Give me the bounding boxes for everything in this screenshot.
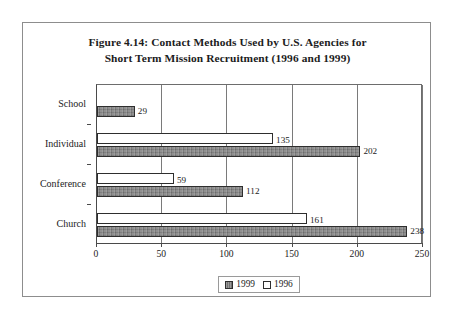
bar-label-1999-individual: 202 <box>363 146 377 157</box>
bar-1999-school <box>97 106 135 117</box>
x-axis-tick-0: 0 <box>94 247 99 260</box>
x-axis-tick-150: 150 <box>284 247 298 260</box>
bar-label-1996-conference: 59 <box>177 175 186 186</box>
figure-frame: Figure 4.14: Contact Methods Used by U.S… <box>22 22 431 297</box>
chart-title: Figure 4.14: Contact Methods Used by U.S… <box>23 34 432 66</box>
x-axis-tick-100: 100 <box>219 247 233 260</box>
y-axis-tick-mark <box>87 164 91 165</box>
legend-swatch-1996 <box>263 281 271 289</box>
bar-1999-individual <box>97 146 360 157</box>
x-axis-tick-mark <box>422 243 423 247</box>
bar-1999-church <box>97 226 407 237</box>
x-axis-tick-250: 250 <box>415 247 429 260</box>
chart-title-line-2: Short Term Mission Recruitment (1996 and… <box>23 50 432 66</box>
bar-label-1999-school: 29 <box>138 106 147 117</box>
bar-1996-church <box>97 213 307 224</box>
y-axis-tick-conference: Conference <box>40 178 91 190</box>
x-axis-labels: 050100150200250 <box>96 247 422 261</box>
y-axis-tick-individual: Individual <box>45 138 91 150</box>
bar-label-1999-conference: 112 <box>246 186 259 197</box>
chart-legend: 19991996 <box>218 276 300 293</box>
bar-label-1999-church: 238 <box>410 226 424 237</box>
x-axis-tick-mark <box>357 243 358 247</box>
y-axis-tick-mark <box>87 124 91 125</box>
x-axis-tick-mark <box>292 243 293 247</box>
gridline <box>357 85 358 243</box>
bar-1996-individual <box>97 133 273 144</box>
legend-entry-1999: 1999 <box>225 279 255 290</box>
legend-label-1996: 1996 <box>274 279 293 290</box>
gridline <box>422 85 423 243</box>
chart-title-line-1: Figure 4.14: Contact Methods Used by U.S… <box>23 34 432 50</box>
x-axis-tick-200: 200 <box>350 247 364 260</box>
y-axis-tick-church: Church <box>57 218 91 230</box>
bar-label-1996-church: 161 <box>310 215 324 226</box>
y-axis-labels: SchoolIndividualConferenceChurch <box>23 84 91 244</box>
x-axis-tick-50: 50 <box>156 247 166 260</box>
x-axis-tick-mark <box>226 243 227 247</box>
x-axis-tick-mark <box>96 243 97 247</box>
bar-1996-conference <box>97 173 174 184</box>
legend-entry-1996: 1996 <box>263 279 293 290</box>
bar-label-1996-individual: 135 <box>276 135 290 146</box>
y-axis-tick-school: School <box>58 98 91 110</box>
legend-swatch-1999 <box>225 281 233 289</box>
legend-label-1999: 1999 <box>236 279 255 290</box>
y-axis-tick-mark <box>87 204 91 205</box>
x-axis-tick-mark <box>161 243 162 247</box>
plot-area: 2913520259112161238 <box>96 84 422 244</box>
bar-1999-conference <box>97 186 243 197</box>
